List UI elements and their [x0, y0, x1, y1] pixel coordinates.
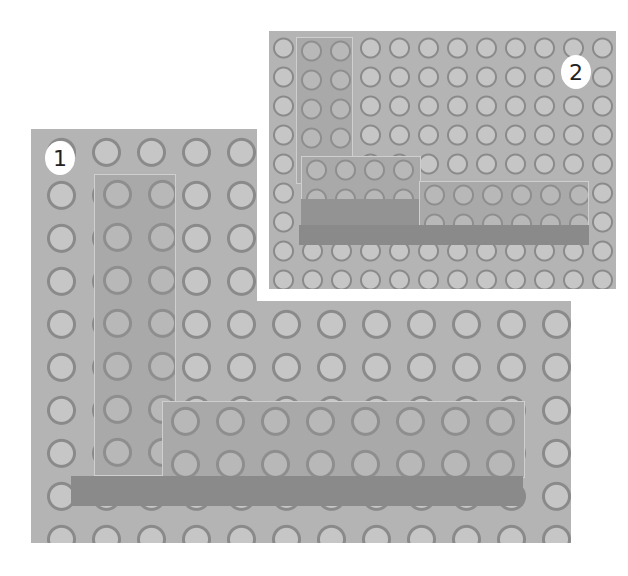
brick-side — [71, 476, 523, 506]
brick-side — [299, 225, 589, 245]
horizontal-brick — [419, 181, 589, 228]
horizontal-brick — [162, 401, 525, 478]
step-number-badge: 2 — [561, 55, 591, 89]
brick-side — [301, 199, 419, 227]
step-number-badge: 1 — [45, 141, 75, 175]
photo-step-2: 2 — [257, 31, 616, 301]
